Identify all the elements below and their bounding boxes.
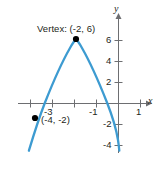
y-tick-label-2: 2 xyxy=(106,77,111,87)
y-tick-label-4: 4 xyxy=(106,56,111,66)
point-marker-neg4-neg2 xyxy=(32,115,38,121)
x-tick-label-1: 1 xyxy=(136,107,141,117)
y-tick-label-neg2: -2 xyxy=(103,119,112,129)
y-tick-label-neg4: -4 xyxy=(103,140,112,150)
x-tick-label-neg3: -3 xyxy=(44,107,53,117)
x-axis-label: x xyxy=(148,96,152,106)
vertex-point-marker xyxy=(73,36,79,42)
graph-figure: Vertex: (-2, 6) (-4, -2) x y -3 -1 1 6 4… xyxy=(0,0,161,170)
vertex-annotation-label: Vertex: (-2, 6) xyxy=(37,24,95,34)
y-tick-label-6: 6 xyxy=(106,35,111,45)
x-tick-label-neg1: -1 xyxy=(89,107,98,117)
y-axis-label: y xyxy=(114,4,118,14)
